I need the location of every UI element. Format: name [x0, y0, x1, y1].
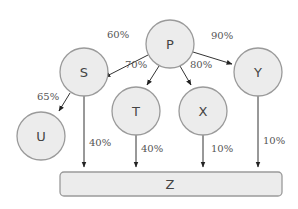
- node-z: Z: [60, 172, 282, 196]
- node-label-t: T: [131, 104, 140, 119]
- edge-label-p-t: 70%: [125, 59, 147, 70]
- node-label-p: P: [166, 37, 174, 52]
- node-s: S: [60, 48, 108, 96]
- node-label-z: Z: [166, 177, 175, 192]
- edge-label-p-x: 80%: [190, 59, 212, 70]
- edge-label-p-s: 60%: [107, 29, 129, 40]
- node-label-s: S: [80, 65, 88, 80]
- edge-label-s-u: 65%: [37, 91, 59, 102]
- edge-label-x-z: 10%: [211, 143, 233, 154]
- node-u: U: [17, 112, 65, 160]
- node-x: X: [179, 87, 227, 135]
- node-t: T: [112, 87, 160, 135]
- edge-label-s-z: 40%: [89, 137, 111, 148]
- edge-label-p-y: 90%: [211, 30, 233, 41]
- node-y: Y: [234, 48, 282, 96]
- node-label-x: X: [199, 104, 208, 119]
- node-label-u: U: [36, 129, 46, 144]
- edge-p-t: [147, 66, 159, 85]
- edge-label-y-z: 10%: [263, 135, 285, 146]
- node-label-y: Y: [253, 65, 262, 80]
- edge-label-t-z: 40%: [141, 143, 163, 154]
- node-p: P: [146, 20, 194, 68]
- edge-s-u: [59, 93, 70, 111]
- flow-diagram: 60% 70% 80% 90% 65% 40% 40% 10% 10% P S …: [0, 0, 298, 209]
